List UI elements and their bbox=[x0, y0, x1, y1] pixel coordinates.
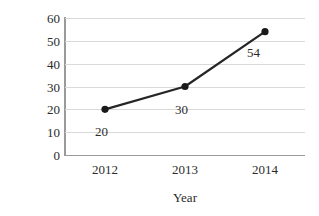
data-point-label: 30 bbox=[175, 103, 188, 116]
x-axis-tick-label: 2012 bbox=[75, 163, 135, 177]
x-axis-title: Year bbox=[65, 190, 305, 206]
y-axis-tick-label: 60 bbox=[32, 12, 60, 25]
x-axis-tick-label: 2014 bbox=[235, 163, 295, 177]
y-axis-tick-label: 10 bbox=[32, 126, 60, 139]
data-point-marker bbox=[181, 83, 188, 90]
series-line bbox=[105, 32, 265, 110]
line-chart: Population 0102030405060 203054 20122013… bbox=[0, 0, 319, 216]
data-point-marker bbox=[101, 106, 108, 113]
data-point-label: 54 bbox=[247, 46, 260, 59]
x-axis-tick-label: 2013 bbox=[155, 163, 215, 177]
y-axis-tick-label: 40 bbox=[32, 58, 60, 71]
y-axis-tick-label: 0 bbox=[32, 149, 60, 162]
data-point-marker bbox=[261, 28, 268, 35]
data-point-label: 20 bbox=[95, 125, 108, 138]
y-axis-tick-label: 30 bbox=[32, 81, 60, 94]
y-axis-tick-label: 20 bbox=[32, 103, 60, 116]
y-axis-tick-labels: 0102030405060 bbox=[30, 0, 60, 216]
y-axis-tick-label: 50 bbox=[32, 35, 60, 48]
